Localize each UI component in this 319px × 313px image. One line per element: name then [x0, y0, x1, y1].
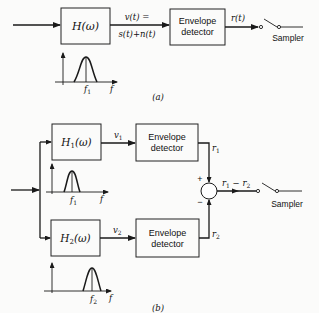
freq-axis-label-b2: f — [108, 293, 114, 303]
envelope-detector-1: Envelope detector — [136, 124, 198, 161]
spectrum-plot-b2: f2 f — [44, 263, 114, 305]
v2-label: v2 — [113, 225, 122, 236]
signal-label-bottom: s(t)+n(t) — [118, 29, 155, 39]
diagram-canvas: H(ω) v(t) = s(t)+n(t) Envelope detector … — [0, 0, 319, 313]
diagram-a: H(ω) v(t) = s(t)+n(t) Envelope detector … — [13, 8, 304, 102]
filter-label-h2: H2(ω) — [59, 232, 90, 246]
difference-label: r1 − r2 — [222, 178, 251, 189]
detector-label-line1: Envelope — [179, 16, 217, 26]
detector-label-line2: detector — [181, 27, 214, 37]
difference-arrowhead — [232, 189, 239, 194]
freq-axis-label-b1: f — [99, 194, 105, 204]
sampler-switch-a — [259, 19, 303, 29]
r1-label: r1 — [212, 143, 220, 154]
caption-a: (a) — [152, 92, 164, 102]
detector1-line1: Envelope — [148, 132, 186, 142]
plus-sign: + — [197, 174, 202, 184]
diagram-b: H1(ω) v1 Envelope detector r1 f1 f H2(ω)… — [11, 124, 303, 313]
output-label-a: r(t) — [231, 13, 245, 23]
spectrum-plot-b1: f1 f — [46, 164, 108, 206]
sampler-label-b: Sampler — [271, 199, 303, 209]
filter-block-a: H(ω) — [61, 8, 110, 44]
detector1-line2: detector — [151, 143, 184, 153]
v1-label: v1 — [114, 130, 123, 141]
filter-label-h1: H1(ω) — [60, 136, 91, 150]
sampler-label-a: Sampler — [272, 33, 304, 43]
envelope-detector-a: Envelope detector — [170, 9, 225, 45]
envelope-detector-2: Envelope detector — [136, 219, 199, 257]
r2-label: r2 — [212, 229, 220, 240]
center-freq-label-a: f1 — [83, 84, 91, 95]
detector2-line1: Envelope — [149, 228, 187, 238]
passband-curve-a — [74, 57, 97, 82]
summing-junction: + − — [197, 174, 217, 207]
filter-label-a: H(ω) — [71, 20, 99, 33]
minus-sign: − — [197, 197, 202, 207]
signal-label-top: v(t) = — [125, 12, 150, 22]
center-freq-label-b2: f2 — [89, 294, 97, 305]
detector2-line2: detector — [151, 239, 184, 249]
spectrum-plot-a: f1 f — [55, 53, 117, 95]
filter-block-h2: H2(ω) — [51, 220, 100, 256]
freq-axis-label-a: f — [109, 84, 115, 94]
filter-block-h1: H1(ω) — [52, 124, 101, 160]
caption-b: (b) — [152, 303, 164, 313]
center-freq-label-b1: f1 — [69, 195, 77, 206]
sampler-switch-b — [256, 183, 302, 193]
